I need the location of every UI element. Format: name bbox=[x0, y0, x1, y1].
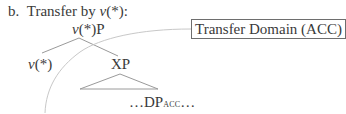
node-vP: v(*)P bbox=[72, 22, 105, 37]
xp-triangle bbox=[80, 74, 158, 89]
transfer-domain-box: Transfer Domain (ACC) bbox=[191, 19, 346, 39]
node-vP-rest: (*)P bbox=[79, 21, 105, 37]
node-v-rest: (*) bbox=[35, 56, 53, 72]
leaf-dp-acc: …DPACC… bbox=[129, 95, 195, 110]
node-vP-v: v bbox=[72, 21, 79, 37]
node-v: v(*) bbox=[28, 57, 52, 72]
leaf-subscript: ACC bbox=[163, 100, 180, 109]
node-v-v: v bbox=[28, 56, 35, 72]
branch-left bbox=[42, 38, 79, 53]
node-XP: XP bbox=[111, 57, 130, 72]
branch-right bbox=[79, 38, 118, 56]
leaf-suffix: … bbox=[180, 94, 195, 110]
leaf-prefix: …DP bbox=[129, 94, 163, 110]
